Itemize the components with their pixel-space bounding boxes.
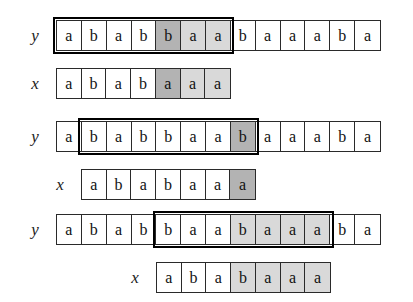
sequence-cell: a	[206, 122, 231, 151]
sequence-cell: a	[57, 215, 82, 244]
sequence-cell: a	[181, 170, 206, 199]
sequence-cell: a	[355, 21, 380, 50]
sequence-cell: a	[181, 69, 206, 98]
sequence-cell: a	[305, 122, 330, 151]
sequence-strip-y: ababbaabaaaba	[56, 20, 381, 51]
sequence-cell: b	[330, 122, 355, 151]
sequence-cell: b	[231, 215, 256, 244]
sequence-cell: b	[132, 122, 157, 151]
sequence-cell: a	[281, 263, 306, 292]
sequence-cell: b	[82, 122, 107, 151]
sequence-cell: a	[281, 122, 306, 151]
sequence-cell: b	[82, 69, 107, 98]
sequence-strip-y: ababbaabaaaba	[56, 214, 381, 245]
sequence-cell: a	[181, 215, 206, 244]
sequence-cell: a	[305, 215, 330, 244]
sequence-cell: b	[330, 21, 355, 50]
sequence-cell: a	[355, 122, 380, 151]
sequence-cell: a	[256, 215, 281, 244]
sequence-cell: b	[156, 215, 181, 244]
sequence-strip-x: ababaaa	[81, 169, 256, 200]
sequence-cell: a	[157, 263, 182, 292]
sequence-cell: a	[206, 263, 231, 292]
sequence-cell: a	[305, 263, 330, 292]
sequence-cell: b	[231, 263, 256, 292]
sequence-cell: a	[230, 170, 255, 199]
x-sequence-row: xababaaa	[0, 262, 413, 293]
sequence-cell: b	[82, 21, 107, 50]
sequence-cell: a	[256, 122, 281, 151]
sequence-cell: a	[206, 21, 231, 50]
string-alignment-figure: yababbaabaaabaxababaaayababbaabaaabaxaba…	[0, 0, 413, 302]
sequence-cell: b	[132, 21, 157, 50]
sequence-cell: b	[131, 69, 156, 98]
sequence-cell: a	[57, 122, 82, 151]
sequence-cell: a	[57, 69, 82, 98]
sequence-cell: a	[156, 69, 181, 98]
sequence-cell: b	[231, 122, 256, 151]
sequence-cell: a	[256, 263, 281, 292]
sequence-cell: a	[256, 21, 281, 50]
sequence-cell: a	[281, 21, 306, 50]
sequence-cell: a	[205, 69, 230, 98]
sequence-cell: b	[156, 21, 181, 50]
sequence-cell: a	[82, 170, 107, 199]
sequence-cell: b	[330, 215, 355, 244]
sequence-cell: b	[132, 215, 157, 244]
sequence-cell: a	[107, 122, 132, 151]
sequence-cell: b	[156, 122, 181, 151]
sequence-cell: a	[206, 170, 231, 199]
y-row-label: y	[24, 121, 46, 152]
sequence-cell: b	[156, 170, 181, 199]
sequence-strip-x: ababaaa	[156, 262, 331, 293]
sequence-cell: a	[305, 21, 330, 50]
y-sequence-row: yababbaabaaaba	[0, 121, 413, 152]
x-row-label: x	[24, 68, 46, 99]
sequence-cell: a	[206, 215, 231, 244]
sequence-cell: a	[106, 69, 131, 98]
sequence-cell: b	[182, 263, 207, 292]
x-sequence-row: xababaaa	[0, 169, 413, 200]
y-sequence-row: yababbaabaaaba	[0, 20, 413, 51]
sequence-strip-y: ababbaabaaaba	[56, 121, 381, 152]
sequence-cell: a	[355, 215, 380, 244]
y-sequence-row: yababbaabaaaba	[0, 214, 413, 245]
sequence-cell: b	[231, 21, 256, 50]
sequence-cell: a	[107, 215, 132, 244]
y-row-label: y	[24, 20, 46, 51]
sequence-cell: a	[107, 21, 132, 50]
sequence-cell: a	[57, 21, 82, 50]
alignment-step-3: yababbaabaaabaxababaaa	[0, 214, 413, 293]
x-row-label: x	[49, 169, 71, 200]
sequence-cell: a	[181, 122, 206, 151]
sequence-cell: b	[82, 215, 107, 244]
sequence-cell: a	[181, 21, 206, 50]
x-sequence-row: xababaaa	[0, 68, 413, 99]
sequence-cell: a	[131, 170, 156, 199]
x-row-label: x	[124, 262, 146, 293]
y-row-label: y	[24, 214, 46, 245]
alignment-step-2: yababbaabaaabaxababaaa	[0, 121, 413, 200]
sequence-cell: a	[281, 215, 306, 244]
alignment-step-1: yababbaabaaabaxababaaa	[0, 20, 413, 99]
sequence-cell: b	[107, 170, 132, 199]
sequence-strip-x: ababaaa	[56, 68, 231, 99]
